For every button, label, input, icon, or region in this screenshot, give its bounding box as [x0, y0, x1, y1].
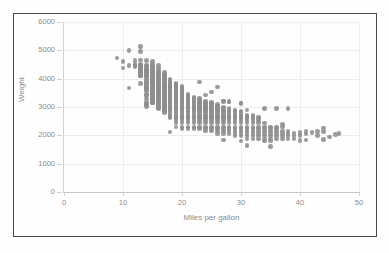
scatter-point	[227, 100, 232, 105]
y-tick-mark	[57, 79, 62, 80]
scatter-point	[127, 48, 132, 53]
scatter-point	[138, 49, 143, 54]
scatter-point	[321, 137, 326, 142]
scatter-point	[138, 44, 143, 49]
scatter-point	[268, 144, 273, 149]
scatter-point	[186, 126, 191, 131]
scatter-point	[239, 134, 244, 139]
scatter-point	[337, 131, 342, 136]
scatter-point	[115, 56, 120, 61]
y-tick-mark	[57, 135, 62, 136]
y-tick-mark	[57, 164, 62, 165]
scatter-point	[150, 101, 155, 106]
scatter-point	[221, 99, 226, 104]
gridline-vertical	[241, 22, 242, 192]
scatter-point	[180, 126, 185, 131]
plot-area	[64, 22, 359, 192]
scatter-point	[280, 122, 285, 127]
title-remnant	[168, 0, 194, 6]
scatter-point	[138, 68, 143, 73]
x-tick-mark	[241, 192, 242, 196]
scatter-point	[233, 134, 238, 139]
scatter-point	[138, 74, 143, 79]
y-tick-mark	[57, 107, 62, 108]
scatter-point	[168, 115, 173, 120]
gridline-horizontal	[64, 22, 359, 23]
gridline-horizontal	[64, 79, 359, 80]
scatter-point	[310, 130, 315, 135]
chart-page: 0100020003000400050006000 Weight Miles p…	[0, 0, 389, 253]
scatter-point	[209, 90, 214, 95]
scatter-point	[197, 80, 202, 85]
scatter-point	[133, 64, 138, 69]
scatter-point	[239, 101, 244, 106]
x-tick-label: 50	[344, 199, 374, 207]
scatter-point	[245, 137, 250, 142]
scatter-point	[298, 133, 303, 138]
scatter-point	[192, 126, 197, 131]
scatter-point	[162, 110, 167, 115]
scatter-point	[245, 143, 250, 148]
scatter-point	[144, 104, 149, 109]
scatter-point	[215, 85, 220, 90]
scatter-point	[280, 137, 285, 142]
scatter-point	[121, 66, 126, 71]
y-tick-label: 6000	[15, 18, 55, 26]
gridline-vertical	[300, 22, 301, 192]
x-tick-label: 20	[167, 199, 197, 207]
scatter-point	[215, 131, 220, 136]
scatter-point	[144, 58, 149, 63]
scatter-point	[209, 129, 214, 134]
scatter-point	[298, 138, 303, 143]
scatter-point	[156, 106, 161, 111]
scatter-point	[127, 86, 132, 91]
scatter-point	[262, 139, 267, 144]
scatter-point	[138, 81, 143, 86]
x-tick-mark	[359, 192, 360, 196]
y-axis-labels: 0100020003000400050006000	[10, 0, 55, 253]
scatter-point	[274, 106, 279, 111]
gridline-horizontal	[64, 164, 359, 165]
y-tick-label: 0	[15, 188, 55, 196]
scatter-point	[121, 59, 126, 64]
gridline-horizontal	[64, 50, 359, 51]
scatter-point	[174, 125, 179, 130]
scatter-point	[262, 106, 267, 111]
scatter-point	[304, 138, 309, 143]
scatter-point	[168, 130, 173, 135]
scatter-point	[239, 139, 244, 144]
x-tick-label: 30	[226, 199, 256, 207]
scatter-point	[197, 126, 202, 131]
scatter-point	[274, 137, 279, 142]
scatter-point	[245, 108, 250, 113]
scatter-point	[221, 138, 226, 143]
gridline-vertical	[123, 22, 124, 192]
y-tick-label: 1000	[15, 160, 55, 168]
y-tick-label: 5000	[15, 46, 55, 54]
scatter-point	[127, 63, 132, 68]
x-tick-label: 0	[49, 199, 79, 207]
scatter-point	[315, 133, 320, 138]
y-tick-label: 2000	[15, 131, 55, 139]
x-tick-label: 40	[285, 199, 315, 207]
scatter-point	[221, 131, 226, 136]
scatter-point	[268, 139, 273, 144]
x-tick-mark	[64, 192, 65, 196]
x-axis-title: Miles per gallon	[64, 213, 359, 222]
x-tick-mark	[123, 192, 124, 196]
gridline-vertical	[359, 22, 360, 192]
scatter-point	[286, 106, 291, 111]
scatter-point	[292, 137, 297, 142]
y-tick-mark	[57, 50, 62, 51]
scatter-point	[256, 137, 261, 142]
x-tick-label: 10	[108, 199, 138, 207]
y-tick-mark	[57, 22, 62, 23]
scatter-point	[251, 137, 256, 142]
x-tick-mark	[300, 192, 301, 196]
scatter-point	[203, 129, 208, 134]
scatter-point	[286, 137, 291, 142]
y-tick-mark	[57, 192, 62, 193]
scatter-point	[327, 135, 332, 140]
y-axis-title: Weight	[17, 68, 26, 112]
x-tick-mark	[182, 192, 183, 196]
